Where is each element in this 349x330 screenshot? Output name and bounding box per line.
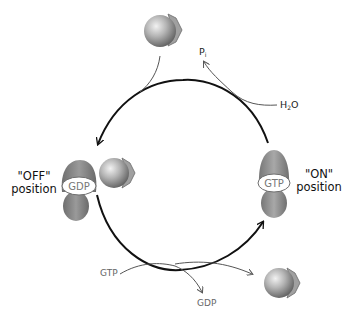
off-label-line2: position — [6, 183, 62, 196]
water-o: O — [291, 99, 298, 110]
phosphate-sub: i — [205, 51, 207, 58]
gprotein-cycle-diagram: GDP GTP "OFF" position "ON" position Pi … — [0, 0, 349, 330]
phosphate-label: Pi — [199, 46, 206, 58]
on-state-complex: GTP — [258, 150, 290, 218]
hydrolysis-arrow — [204, 62, 277, 105]
gtp-bound-label: GTP — [264, 178, 284, 189]
on-state-label: "ON" position — [291, 168, 347, 194]
free-beta-gamma-top — [144, 14, 182, 47]
cycle-arrow-on-to-off — [98, 80, 268, 144]
gtp-input-label: GTP — [100, 268, 118, 278]
off-state-complex: GDP — [62, 158, 135, 221]
water-label: H2O — [280, 99, 298, 111]
on-label-line2: position — [291, 181, 347, 194]
gdp-output-label: GDP — [197, 298, 216, 308]
cycle-arrow-off-to-on — [97, 195, 263, 270]
off-state-label: "OFF" position — [6, 170, 62, 196]
free-beta-gamma-bottom — [264, 268, 300, 298]
gdp-bound-label: GDP — [68, 181, 89, 192]
diagram-canvas: GDP GTP — [0, 0, 349, 330]
